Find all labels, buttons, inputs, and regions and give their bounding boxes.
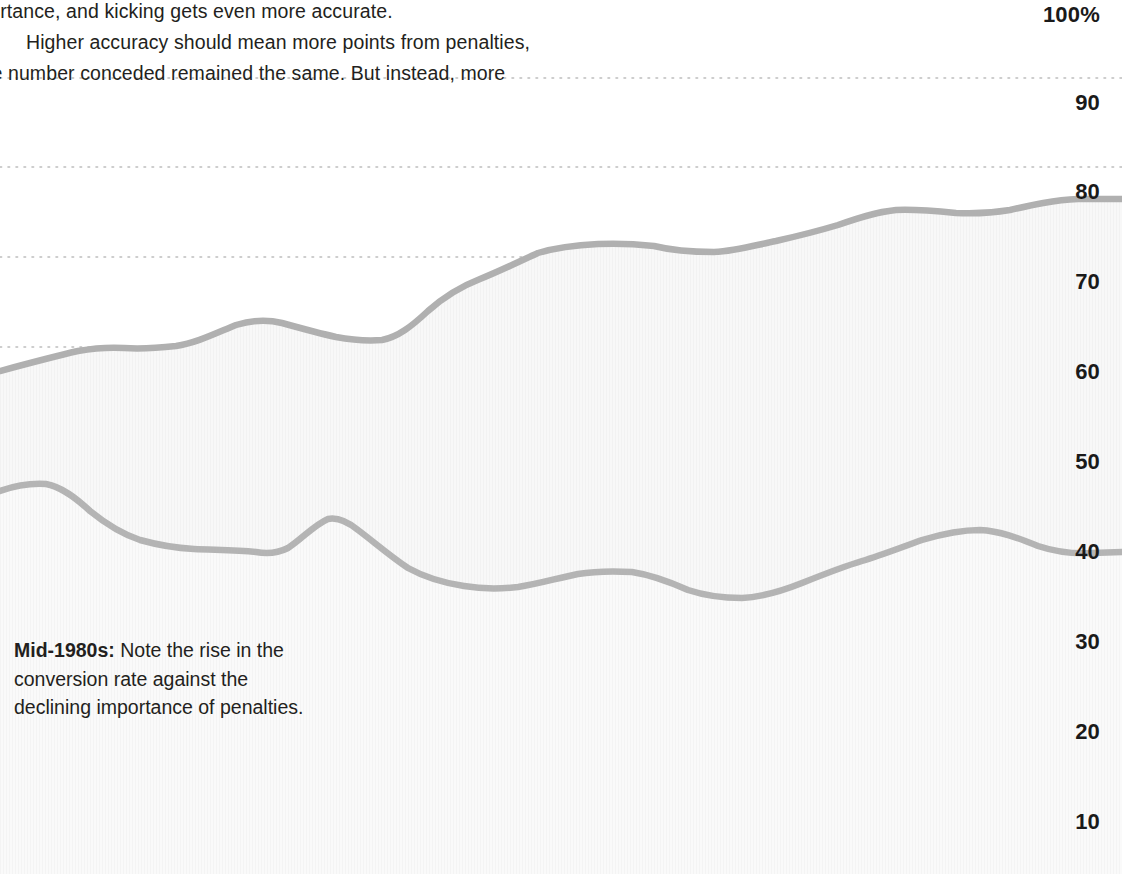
y-axis-tick-30: 30 [1075,629,1100,655]
y-axis-tick-20: 20 [1075,719,1100,745]
y-axis-tick-10: 10 [1075,809,1100,835]
y-axis-tick-70: 70 [1075,269,1100,295]
y-axis-tick-40: 40 [1075,539,1100,565]
y-axis-tick-50: 50 [1075,449,1100,475]
y-axis-tick-100: 100% [1043,2,1100,28]
y-axis-tick-60: 60 [1075,359,1100,385]
page-root: mportance, and kicking gets even more ac… [0,0,1122,874]
y-axis-tick-90: 90 [1075,90,1100,116]
y-axis-labels: 100% 90 80 70 60 50 40 30 20 10 [0,0,1122,874]
y-axis-tick-80: 80 [1075,179,1100,205]
